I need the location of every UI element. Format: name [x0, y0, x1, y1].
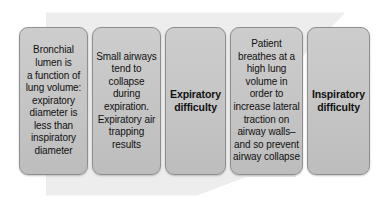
flow-step-2[interactable]: Small airways tend to collapse during ex… [92, 27, 161, 175]
flow-step-1-label: Bronchial lumen is a function of lung vo… [22, 44, 85, 157]
flow-boxes-container: Bronchial lumen is a function of lung vo… [0, 0, 379, 217]
flow-step-5[interactable]: Inspiratory difficulty [307, 27, 370, 175]
flow-step-3-label: Expiratory difficulty [168, 88, 223, 114]
flow-step-1[interactable]: Bronchial lumen is a function of lung vo… [19, 27, 88, 175]
flow-step-5-label: Inspiratory difficulty [310, 88, 367, 114]
flow-step-3[interactable]: Expiratory difficulty [165, 27, 226, 175]
diagram-canvas: Bronchial lumen is a function of lung vo… [0, 0, 379, 217]
flow-step-4[interactable]: Patient breathes at a high lung volume i… [230, 27, 303, 175]
flow-step-4-label: Patient breathes at a high lung volume i… [233, 38, 300, 164]
flow-step-2-label: Small airways tend to collapse during ex… [95, 51, 158, 152]
